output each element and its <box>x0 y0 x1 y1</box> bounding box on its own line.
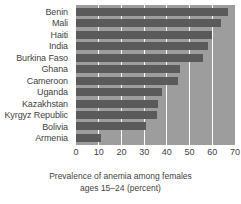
gridline-70 <box>235 5 236 145</box>
y-axis-label: Benin <box>45 7 68 19</box>
y-axis-label: Burkina Faso <box>16 53 68 65</box>
bar <box>76 77 178 85</box>
bar <box>76 42 208 50</box>
bar <box>76 8 228 16</box>
y-axis-label: Bolivia <box>42 122 68 134</box>
x-tick-label: 50 <box>185 147 195 157</box>
y-axis-label: Mali <box>52 18 68 30</box>
y-axis-label: India <box>49 41 68 53</box>
x-axis-title-line-2: ages 15–24 (percent) <box>0 182 241 194</box>
x-tick-label: 40 <box>162 147 172 157</box>
y-axis-label: Armenia <box>35 133 68 145</box>
x-tick-label: 30 <box>139 147 149 157</box>
bar <box>76 31 212 39</box>
y-axis-label: Kyrgyz Republic <box>4 110 68 122</box>
plot-area <box>76 5 235 145</box>
x-tick-label: 70 <box>230 147 240 157</box>
bar <box>76 88 162 96</box>
bar <box>76 111 157 119</box>
y-axis-label: Ghana <box>41 64 68 76</box>
bar <box>76 54 203 62</box>
y-axis-label: Cameroon <box>27 76 68 88</box>
x-tick-label: 20 <box>116 147 126 157</box>
x-tick-label: 10 <box>94 147 104 157</box>
x-axis-title-line-1: Prevalence of anemia among females <box>0 170 241 182</box>
y-axis-label: Kazakhstan <box>22 99 68 111</box>
x-axis-tick-labels: 010203040506070 <box>0 147 241 159</box>
x-axis-title: Prevalence of anemia among females ages … <box>0 170 241 194</box>
x-tick-label: 0 <box>73 147 78 157</box>
y-axis-category-labels: BeninMaliHaitiIndiaBurkina FasoGhanaCame… <box>0 6 72 144</box>
y-axis-label: Uganda <box>37 87 68 99</box>
bar <box>76 122 146 130</box>
x-tick-label: 60 <box>207 147 217 157</box>
bar <box>76 65 180 73</box>
y-axis-label: Haiti <box>50 30 68 42</box>
anemia-prevalence-bar-chart: BeninMaliHaitiIndiaBurkina FasoGhanaCame… <box>0 0 241 204</box>
bar <box>76 100 158 108</box>
bar <box>76 134 101 142</box>
bar <box>76 19 221 27</box>
